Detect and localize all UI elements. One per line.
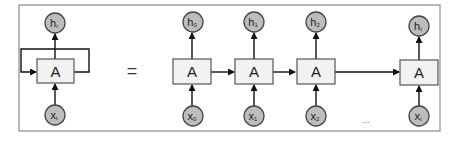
timestep-t: A ht xt [400, 16, 438, 126]
ellipsis: ... [362, 115, 370, 125]
cell-label: A [187, 63, 197, 80]
diagram-frame [19, 5, 440, 131]
cell-label: A [311, 63, 321, 80]
rnn-diagram: A ht xt = A h0 x0 A h1 [0, 0, 457, 141]
unrolled-rnn: A h0 x0 A h1 x1 A h2 x2 [173, 12, 438, 126]
timestep-2: A h2 x2 [297, 12, 335, 126]
equals-sign: = [127, 61, 138, 81]
timestep-0: A h0 x0 [173, 12, 211, 126]
folded-rnn: A ht xt [21, 13, 89, 125]
cell-label: A [249, 63, 259, 80]
cell-label: A [414, 64, 424, 81]
timestep-1: A h1 x1 [235, 12, 273, 126]
cell-label: A [50, 63, 60, 80]
